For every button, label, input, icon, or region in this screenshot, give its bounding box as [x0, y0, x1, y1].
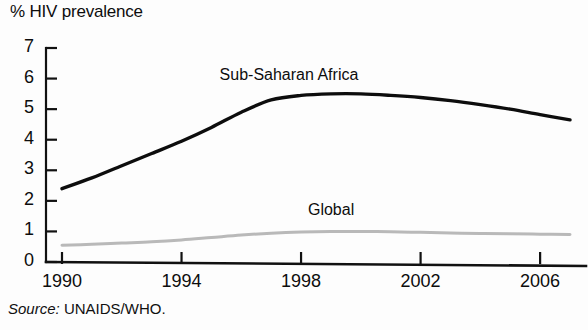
x-axis-line — [46, 262, 586, 266]
chart-figure: % HIV prevalence 01234567 19901994199820… — [0, 0, 588, 330]
y-tick-label: 4 — [12, 128, 34, 149]
series-line-sub-saharan-africa — [62, 94, 570, 189]
y-tick-label: 5 — [12, 97, 34, 118]
series-line-global — [62, 231, 570, 245]
y-tick-label: 2 — [12, 189, 34, 210]
data-series — [62, 94, 570, 246]
source-note: Source: UNAIDS/WHO. — [8, 300, 166, 317]
x-tick-label: 2006 — [508, 271, 572, 292]
y-tick-label: 7 — [12, 36, 34, 57]
source-text: UNAIDS/WHO. — [64, 300, 166, 317]
y-tick-label: 0 — [12, 250, 34, 271]
y-tick-label: 3 — [12, 158, 34, 179]
x-tick-label: 1994 — [150, 271, 214, 292]
source-prefix: Source: — [8, 300, 60, 317]
x-tick-label: 2002 — [389, 271, 453, 292]
y-tick-label: 6 — [12, 67, 34, 88]
series-label-sub-saharan-africa: Sub-Saharan Africa — [220, 66, 359, 84]
y-tick-label: 1 — [12, 219, 34, 240]
series-label-global: Global — [308, 201, 354, 219]
x-tick-label: 1998 — [269, 271, 333, 292]
x-tick-label: 1990 — [30, 271, 94, 292]
